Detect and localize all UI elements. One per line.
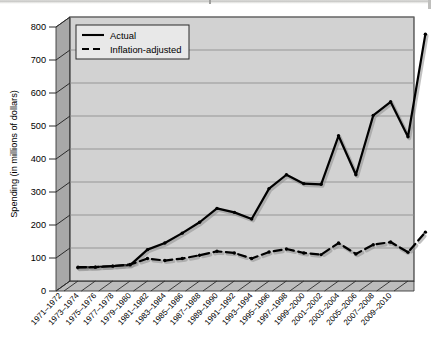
y-tick-label: 400 bbox=[31, 154, 46, 164]
data-point bbox=[354, 173, 357, 176]
data-point bbox=[354, 252, 357, 255]
data-point bbox=[198, 221, 201, 224]
y-tick-label: 200 bbox=[31, 220, 46, 230]
y-tick-label: 700 bbox=[31, 55, 46, 65]
data-point bbox=[285, 247, 288, 250]
data-point bbox=[319, 253, 322, 256]
data-point bbox=[267, 187, 270, 190]
data-point bbox=[372, 243, 375, 246]
data-point bbox=[424, 32, 427, 35]
data-point bbox=[250, 217, 253, 220]
data-point bbox=[94, 265, 97, 268]
data-point bbox=[181, 231, 184, 234]
data-point bbox=[285, 173, 288, 176]
data-point bbox=[337, 241, 340, 244]
data-point bbox=[146, 257, 149, 260]
chart-figure: 0100200300400500600700800 Spending (in m… bbox=[0, 0, 431, 351]
data-point bbox=[163, 241, 166, 244]
data-point bbox=[302, 251, 305, 254]
data-point bbox=[128, 263, 131, 266]
spending-line-chart: 0100200300400500600700800 Spending (in m… bbox=[0, 0, 431, 351]
data-point bbox=[406, 251, 409, 254]
data-point bbox=[267, 250, 270, 253]
legend-label-inflation-adjusted: Inflation-adjusted bbox=[110, 44, 181, 55]
data-point bbox=[389, 240, 392, 243]
data-point bbox=[319, 183, 322, 186]
data-point bbox=[337, 134, 340, 137]
y-tick-label: 500 bbox=[31, 121, 46, 131]
data-point bbox=[163, 259, 166, 262]
data-point bbox=[389, 100, 392, 103]
data-point bbox=[424, 230, 427, 233]
data-point bbox=[250, 257, 253, 260]
y-tick-label: 100 bbox=[31, 253, 46, 263]
data-point bbox=[233, 251, 236, 254]
data-point bbox=[146, 248, 149, 251]
y-tick-label: 600 bbox=[31, 88, 46, 98]
data-point bbox=[76, 265, 79, 268]
data-point bbox=[372, 114, 375, 117]
data-point bbox=[181, 257, 184, 260]
data-point bbox=[406, 135, 409, 138]
y-tick-label: 0 bbox=[41, 286, 46, 296]
x-axis-labels: 1971–19721973–19741975–19761977–19781979… bbox=[29, 291, 394, 327]
y-axis-title: Spending (in millions of dollars) bbox=[9, 90, 19, 218]
data-point bbox=[111, 264, 114, 267]
y-tick-label: 800 bbox=[31, 22, 46, 32]
data-point bbox=[198, 254, 201, 257]
data-point bbox=[302, 182, 305, 185]
data-point bbox=[215, 250, 218, 253]
y-tick-label: 300 bbox=[31, 187, 46, 197]
data-point bbox=[233, 211, 236, 214]
chart-legend: Actual Inflation-adjusted bbox=[76, 25, 189, 59]
legend-label-actual: Actual bbox=[110, 30, 136, 41]
floor-base bbox=[56, 281, 414, 291]
data-point bbox=[215, 207, 218, 210]
